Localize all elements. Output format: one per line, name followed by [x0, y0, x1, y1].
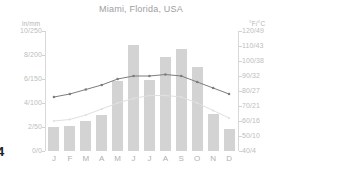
high-temp-point	[196, 81, 199, 84]
right-tickmark-40	[239, 151, 242, 152]
low-temp-point	[117, 102, 119, 104]
right-tickmark-90	[239, 76, 242, 77]
right-tickmark-50	[239, 136, 242, 137]
right-tick-50: 50/10	[242, 132, 260, 140]
month-axis: JFMAMJJASOND	[46, 154, 237, 168]
right-tick-100: 100/38	[242, 57, 264, 65]
high-temp-point	[148, 75, 151, 78]
month-label: A	[159, 154, 171, 164]
low-temp-point	[148, 94, 150, 96]
low-temp-point	[196, 102, 198, 104]
left-tick-200: 8/200	[10, 51, 42, 59]
left-tick-0: 0/0	[10, 147, 42, 155]
left-tickmark-200	[42, 55, 45, 56]
low-temp-point	[132, 97, 134, 99]
left-tickmark-0	[42, 151, 45, 152]
high-temp-point	[132, 75, 135, 78]
low-temp-point	[164, 94, 166, 96]
left-tick-250: 10/250	[10, 27, 42, 35]
right-tick-80: 80/27	[242, 87, 260, 95]
left-tick-100: 4/100	[10, 99, 42, 107]
high-temp-point	[53, 96, 56, 99]
low-temp-line	[54, 96, 229, 122]
left-axis: 10/250 8/200 6/150 4/100 2/50 0/0	[10, 0, 42, 173]
right-tickmark-80	[239, 91, 242, 92]
chart-next-partial: in/mm 10/250 8/200 6/150 4/100 2/50 0/0 …	[282, 0, 362, 173]
left-tickmark-100	[42, 103, 45, 104]
low-temp-point	[212, 109, 214, 111]
left-tick-150: 6/150	[10, 75, 42, 83]
left-tickmark-150	[42, 79, 45, 80]
right-tick-120: 120/49	[242, 27, 264, 35]
chart-title: Miami, Florida, USA	[0, 4, 282, 14]
high-temp-point	[228, 93, 231, 96]
high-temp-point	[69, 93, 72, 96]
right-tickmark-100	[239, 61, 242, 62]
month-label: J	[128, 154, 140, 164]
chart-miami: Miami, Florida, USA in/mm °F/°C 10/250 8…	[0, 0, 282, 173]
high-temp-point	[212, 87, 215, 90]
month-label: M	[112, 154, 124, 164]
month-label: A	[96, 154, 108, 164]
month-label: M	[80, 154, 92, 164]
left-tickmark-50	[42, 127, 45, 128]
month-label: J	[143, 154, 155, 164]
high-temp-point	[100, 84, 103, 87]
low-temp-point	[53, 120, 55, 122]
right-tick-70: 70/21	[242, 102, 260, 110]
right-tickmark-120	[239, 31, 242, 32]
right-tickmark-60	[239, 121, 242, 122]
left-tick-50: 2/50	[10, 123, 42, 131]
right-tick-90: 90/32	[242, 72, 260, 80]
right-tick-60: 60/16	[242, 117, 260, 125]
high-temp-point	[84, 88, 87, 91]
right-tickmark-110	[239, 46, 242, 47]
plot-area-miami	[46, 31, 237, 151]
climate-chart-page: 4 Miami, Florida, USA in/mm °F/°C 10/250…	[0, 0, 362, 173]
right-tick-110: 110/43	[242, 42, 264, 50]
high-temp-line	[54, 75, 229, 98]
low-temp-point	[101, 108, 103, 110]
high-temp-point	[180, 75, 183, 78]
low-temp-point	[69, 118, 71, 120]
month-label: F	[64, 154, 76, 164]
high-temp-point	[116, 78, 119, 81]
right-axis: 120/49 110/43 100/38 90/32 80/27 70/21 6…	[242, 0, 282, 173]
month-label: D	[223, 154, 235, 164]
temperature-lines	[46, 31, 237, 151]
right-tick-40: 40/4	[242, 147, 256, 155]
month-label: N	[207, 154, 219, 164]
low-temp-point	[85, 114, 87, 116]
left-tickmark-250	[42, 31, 45, 32]
low-temp-point	[180, 96, 182, 98]
low-temp-point	[228, 117, 230, 119]
month-label: O	[191, 154, 203, 164]
high-temp-point	[164, 73, 167, 76]
right-tickmark-70	[239, 106, 242, 107]
month-label: S	[175, 154, 187, 164]
month-label: J	[48, 154, 60, 164]
